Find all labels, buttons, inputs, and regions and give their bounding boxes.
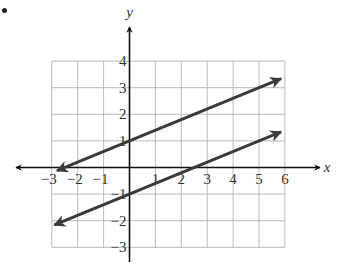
graph-line: [54, 132, 281, 225]
coordinate-plane: xy−3−2−11234564321−1−2−3: [0, 0, 338, 267]
y-tick-label: −3: [111, 239, 127, 255]
y-tick-label: 3: [119, 80, 127, 96]
y-axis-label: y: [124, 4, 133, 20]
x-tick-label: 5: [255, 171, 263, 187]
x-tick-label: −2: [67, 171, 83, 187]
y-tick-label: −2: [111, 213, 127, 229]
x-tick-label: 6: [281, 171, 289, 187]
x-tick-label: 4: [229, 171, 237, 187]
graph-line: [57, 79, 281, 171]
y-tick-label: 1: [119, 133, 127, 149]
y-tick-label: 4: [119, 53, 127, 69]
x-tick-label: 3: [203, 171, 211, 187]
y-tick-label: 2: [119, 106, 127, 122]
x-axis-label: x: [323, 159, 331, 175]
x-tick-label: −1: [93, 171, 109, 187]
x-tick-label: −3: [41, 171, 57, 187]
